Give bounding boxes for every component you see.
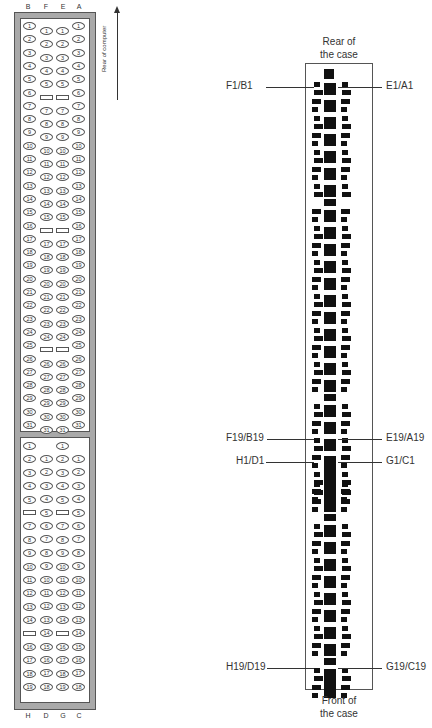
contact-pad — [312, 499, 321, 504]
pin-e-2: 2 — [56, 40, 69, 48]
contact-pad — [341, 499, 350, 504]
contact-pad — [341, 133, 350, 138]
contact-pad — [341, 175, 347, 180]
pin-a-24: 24 — [72, 328, 85, 336]
contact-pad — [342, 336, 351, 341]
contact-pad — [341, 353, 347, 358]
contact-pad — [341, 99, 350, 104]
pin-b-28: 28 — [23, 381, 36, 389]
contact-pad — [314, 438, 320, 443]
contact-pad — [342, 294, 348, 299]
pin-h-17: 17 — [23, 656, 36, 664]
pin-g-13: 13 — [56, 603, 69, 611]
pin-a-8: 8 — [72, 115, 85, 123]
pin-b-3: 3 — [23, 49, 36, 57]
pin-d-13: 13 — [40, 616, 53, 624]
pin-f-30: 30 — [40, 413, 53, 421]
pin-b-27: 27 — [23, 368, 36, 376]
key-blank — [56, 228, 69, 233]
pin-a-23: 23 — [72, 315, 85, 323]
pin-c-3: 3 — [72, 482, 85, 490]
pin-h-12: 12 — [23, 589, 36, 597]
pin-g-18: 18 — [56, 670, 69, 678]
pin-f-18: 18 — [40, 253, 53, 261]
pin-c-5: 5 — [72, 509, 85, 517]
contact-pad — [341, 583, 347, 588]
pin-a-22: 22 — [72, 301, 85, 309]
contact-pad — [342, 260, 348, 265]
contact-pad — [341, 421, 350, 426]
column-letter-d: D — [41, 712, 51, 719]
pin-d-2: 2 — [40, 468, 53, 476]
contact-pad — [312, 243, 321, 248]
pin-b-4: 4 — [23, 62, 36, 70]
contact-pad — [312, 99, 321, 104]
contact-pad — [342, 482, 348, 487]
pin-e-28: 28 — [56, 386, 69, 394]
contact-pad — [341, 379, 350, 384]
contact-pad — [314, 490, 323, 495]
contact-pad — [312, 251, 318, 256]
pin-f-12: 12 — [40, 173, 53, 181]
contact-pad — [341, 685, 350, 690]
label-e1-a1: E1/A1 — [386, 80, 413, 91]
contact-pad — [324, 542, 336, 554]
contact-pad — [342, 234, 351, 239]
pin-a-7: 7 — [72, 102, 85, 110]
pin-h-18: 18 — [23, 670, 36, 678]
leader-line — [338, 668, 382, 669]
pin-e-7: 7 — [56, 107, 69, 115]
caption-line: Front of — [299, 694, 379, 707]
pin-c-8: 8 — [72, 549, 85, 557]
contact-pad — [324, 210, 336, 222]
pin-b-30: 30 — [23, 408, 36, 416]
contact-pad — [324, 405, 336, 417]
contact-pad — [324, 525, 336, 537]
pin-a-25: 25 — [72, 341, 85, 349]
pin-a-11: 11 — [72, 155, 85, 163]
column-letter-c: C — [74, 712, 84, 719]
contact-pad — [314, 558, 320, 563]
contact-pad — [314, 226, 320, 231]
contact-pad — [342, 226, 348, 231]
pin-g-2: 2 — [56, 455, 69, 463]
pin-f-13: 13 — [40, 187, 53, 195]
pin-c-14: 14 — [72, 629, 85, 637]
contact-pad — [342, 592, 348, 597]
contact-pad — [314, 600, 323, 605]
pin-a-16: 16 — [72, 222, 85, 230]
contact-pad — [324, 559, 336, 571]
pin-h-8: 8 — [23, 536, 36, 544]
pin-d-9: 9 — [40, 562, 53, 570]
contact-pad — [324, 168, 336, 180]
contact-pad — [342, 328, 348, 333]
pin-b-23: 23 — [23, 315, 36, 323]
pin-e-20: 20 — [56, 280, 69, 288]
pin-b-13: 13 — [23, 182, 36, 190]
pin-f-14: 14 — [40, 200, 53, 208]
pin-c-12: 12 — [72, 602, 85, 610]
pin-a-19: 19 — [72, 261, 85, 269]
leader-line — [338, 439, 382, 440]
contact-pad — [314, 404, 320, 409]
key-blank — [56, 631, 69, 636]
contact-pad — [314, 412, 323, 417]
pin-d-14: 14 — [40, 629, 53, 637]
pin-f-29: 29 — [40, 399, 53, 407]
contact-pad — [312, 175, 318, 180]
key-blank — [56, 347, 69, 352]
caption-line: Rear of — [299, 35, 379, 48]
lower-pin-block: 1122334455778899101011111212131314141616… — [20, 437, 90, 703]
pin-d-15: 15 — [40, 643, 53, 651]
pin-b-12: 12 — [23, 168, 36, 176]
contact-pad — [312, 455, 321, 460]
pin-g-12: 12 — [56, 589, 69, 597]
contact-pad — [342, 302, 351, 307]
contact-pad — [342, 116, 348, 121]
pin-a-18: 18 — [72, 248, 85, 256]
pin-f-17: 17 — [40, 240, 53, 248]
pin-e-18: 18 — [56, 253, 69, 261]
pin-a-26: 26 — [72, 355, 85, 363]
contact-pad — [341, 345, 350, 350]
contact-pad — [324, 244, 336, 256]
